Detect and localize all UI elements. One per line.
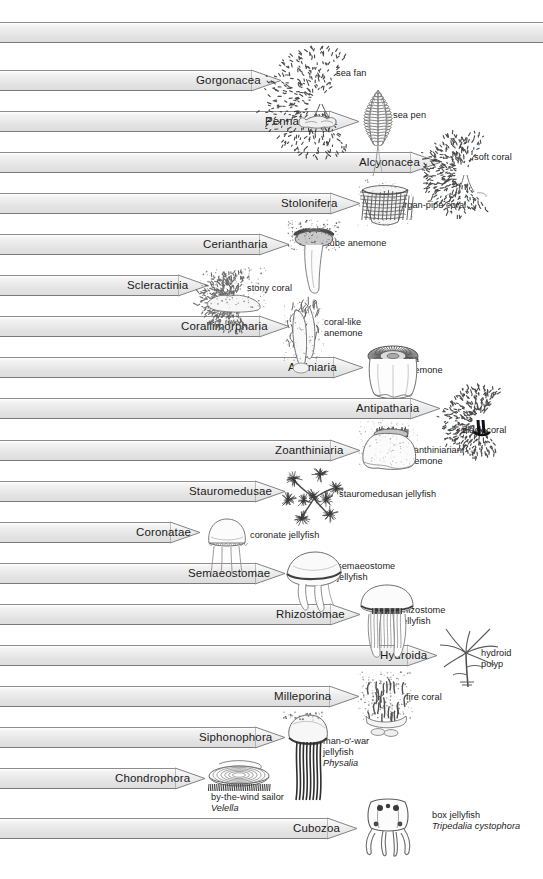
branch-arrowhead: [333, 356, 364, 379]
branch-bar-milleporina: Milleporina: [0, 686, 359, 707]
branch-bar-chondrophora: Chondrophora: [0, 768, 205, 789]
common-name-caption-cubozoa: box jellyfish Tripedalia cystophora: [432, 810, 520, 832]
common-name-text: semaeostome jellyfish: [337, 561, 395, 582]
organism-man-o-war-jellyfish: [283, 712, 335, 808]
organism-semaeostome-jellyfish: [283, 548, 345, 614]
branch-bar-body: [0, 152, 410, 173]
organism-sea-anemone: [362, 340, 426, 402]
branch-bar-siphonophora: Siphonophora: [0, 727, 285, 748]
organism-rhizostome-jellyfish: [357, 582, 417, 662]
taxon-label-gorgonacea: Gorgonacea: [196, 70, 261, 91]
organism-zoanthiniarian-anemone: [358, 420, 420, 472]
branch-arrowhead: [329, 685, 360, 708]
common-name-caption-coronatae: coronate jellyfish: [250, 530, 319, 541]
scientific-name-text: Velella: [211, 803, 239, 813]
common-name-caption-stauromedusae: stauromedusan jellyfish: [339, 489, 436, 500]
common-name-text: box jellyfish: [432, 810, 480, 820]
branch-bar-stolonifera: Stolonifera: [0, 193, 360, 214]
common-name-caption-corallimorpharia: coral-like anemone: [324, 317, 363, 339]
organism-organ-pipe-coral: [358, 180, 416, 230]
root-branch-bar: [0, 22, 543, 43]
organism-coral-like-anemone: [283, 300, 327, 376]
organism-coronate-jellyfish: [199, 513, 255, 575]
root-branch-body: [0, 22, 543, 43]
branch-bar-ceriantharia: Ceriantharia: [0, 234, 289, 255]
branch-bar-body: [0, 818, 327, 839]
organism-sea-pen: [358, 86, 400, 178]
organism-tube-anemone: [288, 220, 342, 296]
organism-fire-coral: [358, 672, 416, 736]
organism-by-the-wind-sailor: [203, 758, 277, 800]
cladogram-figure: Gorgonaceasea fanPennatulaceasea penAlcy…: [0, 0, 543, 879]
taxon-label-zoanthiniaria: Zoanthiniaria: [275, 440, 343, 461]
taxon-label-milleporina: Milleporina: [274, 686, 331, 707]
branch-bar-gorgonacea: Gorgonacea: [0, 70, 281, 91]
organism-stony-coral: [200, 268, 272, 316]
common-name-caption-semaeostomae: semaeostome jellyfish: [337, 561, 395, 583]
common-name-text: coral-like anemone: [324, 317, 363, 338]
common-name-text: stauromedusan jellyfish: [339, 489, 436, 499]
branch-bar-coronatae: Coronatae: [0, 522, 200, 543]
taxon-label-stolonifera: Stolonifera: [281, 193, 338, 214]
organism-sea-fan: [281, 42, 365, 130]
taxon-label-stauromedusae: Stauromedusae: [189, 481, 272, 502]
organism-box-jellyfish: [355, 796, 421, 858]
taxon-label-coronatae: Coronatae: [136, 522, 191, 543]
branch-bar-body: [0, 645, 407, 666]
branch-bar-stauromedusae: Stauromedusae: [0, 481, 285, 502]
scientific-name-text: Tripedalia cystophora: [432, 821, 520, 831]
organism-hydroid-polyp: [436, 627, 502, 689]
organism-stauromedusan-jellyfish: [280, 466, 346, 530]
branch-bar-scleractinia: Scleractinia: [0, 275, 208, 296]
branch-bar-body: [0, 398, 410, 419]
branch-bar-cubozoa: Cubozoa: [0, 818, 357, 839]
organism-soft-coral: [440, 127, 492, 201]
branch-bar-zoanthiniaria: Zoanthiniaria: [0, 440, 360, 461]
common-name-text: coronate jellyfish: [250, 530, 319, 540]
taxon-label-siphonophora: Siphonophora: [199, 727, 272, 748]
taxon-label-chondrophora: Chondrophora: [115, 768, 190, 789]
organism-black-coral: [438, 380, 526, 436]
taxon-label-cubozoa: Cubozoa: [293, 818, 340, 839]
taxon-label-ceriantharia: Ceriantharia: [203, 234, 267, 255]
taxon-label-corallimorpharia: Corallimorpharia: [181, 316, 268, 337]
taxon-label-scleractinia: Scleractinia: [127, 275, 188, 296]
